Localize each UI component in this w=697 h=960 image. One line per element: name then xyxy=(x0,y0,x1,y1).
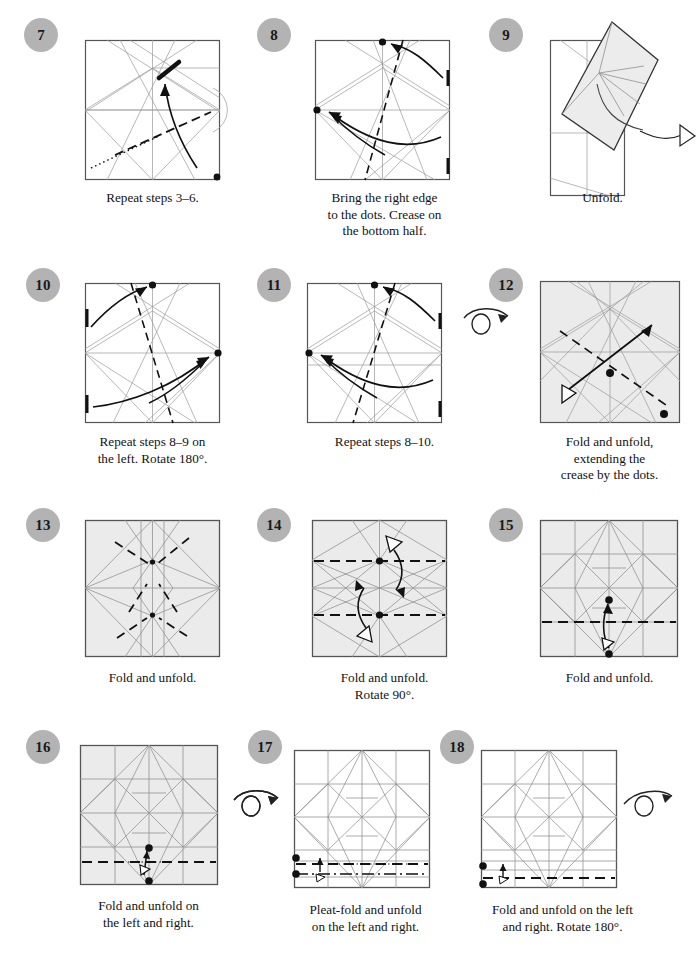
step-caption-12: Fold and unfold, extending the crease by… xyxy=(522,434,697,484)
step-number-badge-11: 11 xyxy=(257,268,291,302)
step-caption-11: Repeat steps 8–10. xyxy=(292,434,477,451)
step-diagram-15 xyxy=(540,520,678,657)
step-number-badge-7: 7 xyxy=(24,18,58,52)
step-caption-18: Fold and unfold on the left and right. R… xyxy=(455,902,670,935)
step-number-badge-17: 17 xyxy=(248,730,282,764)
step-number-badge-13: 13 xyxy=(26,508,60,542)
step-caption-8: Bring the right edge to the dots. Crease… xyxy=(292,190,477,240)
step-number-badge-18: 18 xyxy=(440,730,474,764)
step-diagram-9 xyxy=(540,18,695,183)
turn-over-icon-11 xyxy=(462,300,514,340)
step-diagram-13 xyxy=(85,520,220,657)
step-caption-16: Fold and unfold on the left and right. xyxy=(56,898,241,931)
step-caption-10: Repeat steps 8–9 on the left. Rotate 180… xyxy=(60,434,245,467)
step-number-badge-10: 10 xyxy=(26,268,60,302)
step-diagram-8 xyxy=(315,40,450,180)
step-caption-13: Fold and unfold. xyxy=(60,670,245,687)
step-caption-17: Pleat-fold and unfold on the left and ri… xyxy=(273,902,458,935)
step-number-badge-15: 15 xyxy=(489,508,523,542)
step-caption-14: Fold and unfold. Rotate 90°. xyxy=(292,670,477,703)
turn-over-icon-18 xyxy=(622,782,678,822)
step-diagram-14 xyxy=(312,520,447,657)
step-diagram-18 xyxy=(481,750,617,888)
step-caption-15: Fold and unfold. xyxy=(522,670,697,687)
step-diagram-7 xyxy=(85,40,220,180)
step-diagram-10 xyxy=(85,283,220,423)
step-number-badge-16: 16 xyxy=(26,730,60,764)
step-diagram-17 xyxy=(294,750,430,888)
step-caption-7: Repeat steps 3–6. xyxy=(60,190,245,207)
step-caption-9: Unfold. xyxy=(520,190,685,207)
step-number-badge-9: 9 xyxy=(489,18,523,52)
step-diagram-16 xyxy=(80,745,218,885)
step-diagram-12 xyxy=(540,281,680,423)
step-number-badge-12: 12 xyxy=(489,268,523,302)
step-number-badge-14: 14 xyxy=(257,508,291,542)
turn-over-icon-17 xyxy=(232,782,284,822)
step-number-badge-8: 8 xyxy=(257,18,291,52)
step-diagram-11 xyxy=(307,283,442,423)
